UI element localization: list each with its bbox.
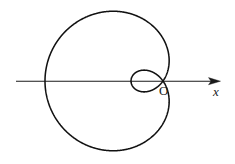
figure-canvas [0,0,235,164]
x-axis-label: x [213,85,219,98]
limacon-figure: O x [0,0,235,164]
origin-label: O [159,84,168,97]
x-axis-group [16,78,221,85]
